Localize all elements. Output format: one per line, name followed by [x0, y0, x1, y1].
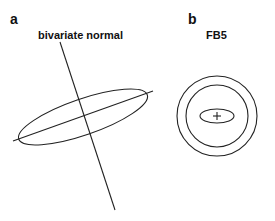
bivariate-ellipse: [13, 78, 153, 156]
minor-axis-line: [60, 42, 115, 210]
bivariate-normal-diagram: [13, 42, 153, 210]
diagram-canvas: [0, 0, 275, 221]
fb5-diagram: [177, 76, 257, 156]
